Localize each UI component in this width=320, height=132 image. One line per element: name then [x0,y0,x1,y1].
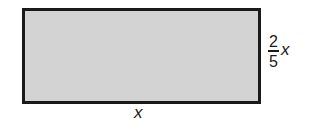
rectangle [22,8,261,104]
height-label: 2 5 x [268,34,290,69]
fraction-numerator: 2 [269,34,278,49]
fraction-bar [268,50,279,52]
fraction: 2 5 [268,34,279,69]
fraction-denominator: 5 [269,54,278,69]
width-label: x [134,103,143,123]
height-variable: x [281,40,290,60]
